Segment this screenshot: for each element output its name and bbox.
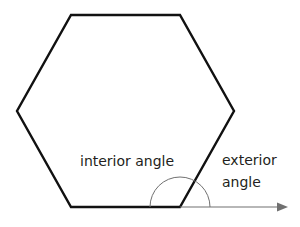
- hexagon-angle-diagram: interior angle exterior angle: [0, 0, 300, 227]
- exterior-angle-label-line1: exterior: [222, 152, 277, 168]
- angle-arc: [150, 177, 210, 207]
- hexagon-outline: [17, 15, 234, 207]
- exterior-angle-label-line2: angle: [222, 174, 261, 190]
- interior-angle-label: interior angle: [80, 153, 174, 169]
- arrow-head-icon: [277, 203, 288, 212]
